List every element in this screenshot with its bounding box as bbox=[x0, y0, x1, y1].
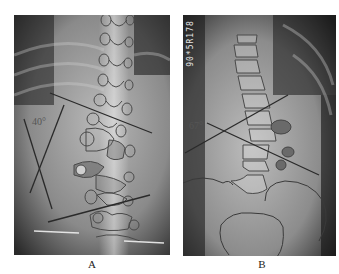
cobb-angle-label-b: 67° bbox=[189, 120, 203, 131]
radiograph-panel-b: 90*5R178 67° bbox=[183, 15, 336, 256]
caption-b: B bbox=[252, 258, 272, 270]
caption-a: A bbox=[82, 258, 102, 270]
radiograph-panel-a: 40° bbox=[14, 15, 170, 255]
xray-image-b bbox=[183, 15, 336, 256]
xray-image-a bbox=[14, 15, 170, 255]
film-id-stamp: 90*5R178 bbox=[183, 17, 197, 77]
cobb-angle-label-a: 40° bbox=[32, 116, 46, 127]
